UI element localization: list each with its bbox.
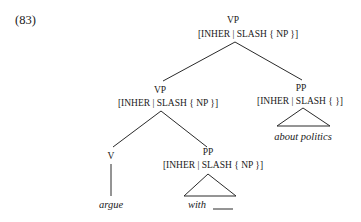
edge-vp-to-pp [161,111,207,147]
right-pp-features: [INHER | SLASH { }] [257,96,343,106]
syntax-tree-figure: (83) VP [INHER | SLASH { NP }] VP [INHER… [0,0,361,222]
right-pp-triangle [277,108,330,126]
right-pp-category: PP [296,83,307,93]
edge-root-to-vp [163,42,235,81]
inner-pp-features: [INHER | SLASH { NP }] [163,160,263,170]
inner-pp-triangle [184,174,236,196]
inner-vp-category: VP [154,85,166,95]
inner-pp-category: PP [203,147,214,157]
edge-vp-to-v [113,111,161,147]
verb-category: V [108,151,115,161]
right-pp-yield: about politics [274,131,331,142]
root-vp-features: [INHER | SLASH { NP }] [198,29,298,39]
inner-vp-features: [INHER | SLASH { NP }] [118,98,218,108]
inner-pp-yield: with [188,199,206,210]
edge-root-to-pp [235,42,302,80]
verb-word: argue [99,199,123,210]
root-vp-category: VP [227,15,239,25]
example-number: (83) [15,13,36,27]
